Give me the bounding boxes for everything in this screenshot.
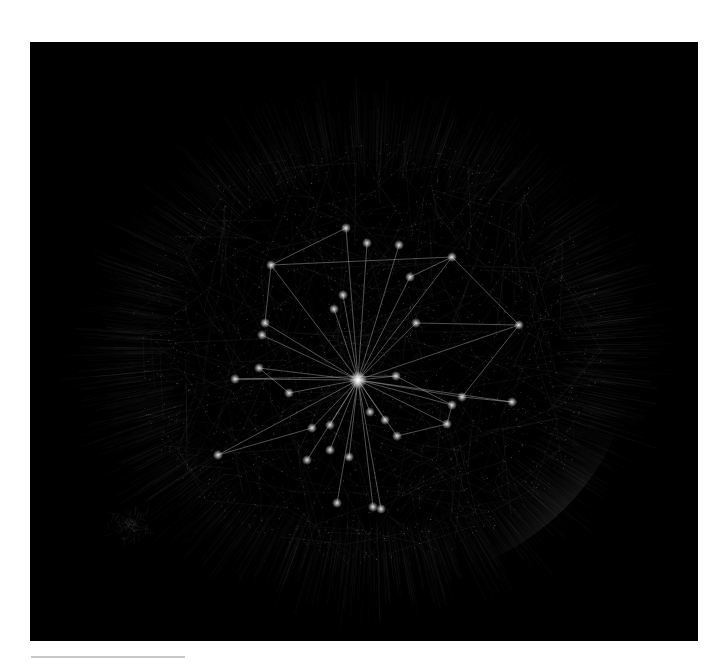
network-graph-canvas <box>30 42 698 641</box>
caption-divider <box>31 656 185 658</box>
network-graph-panel <box>30 42 698 641</box>
